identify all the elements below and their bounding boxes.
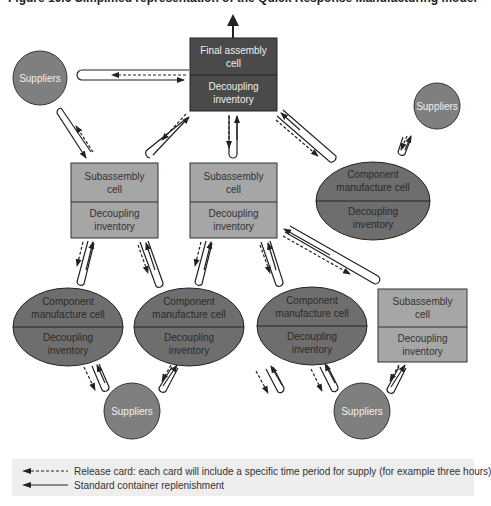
legend: Release card: each card will include a s… (12, 459, 474, 496)
subassembly-cell-left: Subassembly cell Decoupling inventory (71, 163, 158, 238)
dashed-arrow-icon (22, 466, 70, 476)
svg-text:Component: Component (42, 296, 94, 307)
svg-text:inventory: inventory (353, 219, 394, 230)
loop-comp3-suppliers (311, 364, 338, 392)
component-cell-bottom-1: Component manufacture cell Decoupling in… (13, 288, 123, 366)
loop-final-sub-middle (229, 115, 237, 158)
loop-sub-left-comp2 (138, 241, 163, 287)
suppliers-top-left: Suppliers (13, 51, 67, 105)
svg-text:inventory: inventory (213, 94, 254, 105)
svg-text:inventory: inventory (213, 221, 254, 232)
svg-text:manufacture cell: manufacture cell (336, 182, 409, 193)
svg-text:Decoupling: Decoupling (287, 331, 337, 342)
svg-text:Decoupling: Decoupling (43, 332, 93, 343)
legend-standard-container-label: Standard container replenishment (74, 480, 224, 491)
svg-text:manufacture cell: manufacture cell (31, 309, 104, 320)
suppliers-bottom-left: Suppliers (104, 383, 160, 439)
loop-final-sub-left (146, 114, 189, 158)
svg-text:Suppliers: Suppliers (341, 406, 383, 417)
loop-comp1-suppliers (84, 364, 109, 391)
loop-suppliers-sub-left (57, 108, 93, 158)
svg-text:cell: cell (107, 184, 122, 195)
svg-text:inventory: inventory (48, 345, 89, 356)
legend-release-card: Release card: each card will include a s… (12, 464, 491, 478)
svg-text:Decoupling: Decoupling (208, 81, 258, 92)
loop-suppliers-comp-top-right (398, 136, 411, 155)
svg-text:Subassembly: Subassembly (203, 171, 263, 182)
svg-text:inventory: inventory (169, 345, 210, 356)
svg-text:Final assembly: Final assembly (200, 45, 267, 56)
svg-text:Component: Component (286, 295, 338, 306)
solid-arrow-icon (22, 480, 70, 490)
loop-sub-middle-comp2 (195, 241, 212, 285)
svg-text:Decoupling: Decoupling (164, 332, 214, 343)
legend-standard-container: Standard container replenishment (12, 478, 224, 492)
svg-text:Suppliers: Suppliers (19, 73, 61, 84)
arrow-up-icon (227, 14, 239, 26)
svg-text:Decoupling: Decoupling (208, 208, 258, 219)
svg-text:manufacture cell: manufacture cell (275, 308, 348, 319)
output-arrow (227, 14, 239, 38)
final-assembly-cell: Final assembly cell Decoupling inventory (190, 38, 277, 111)
svg-text:inventory: inventory (94, 221, 135, 232)
component-cell-top-right: Component manufacture cell Decoupling in… (316, 162, 430, 240)
svg-text:Decoupling: Decoupling (397, 333, 447, 344)
loop-suppliers-final (77, 70, 189, 80)
loop-comp2-suppliers (159, 365, 178, 392)
loop-sub-left-comp1 (77, 241, 94, 285)
legend-release-card-label: Release card: each card will include a s… (74, 466, 491, 477)
svg-text:inventory: inventory (292, 344, 333, 355)
svg-text:cell: cell (226, 58, 241, 69)
subassembly-cell-middle: Subassembly cell Decoupling inventory (190, 163, 277, 238)
svg-text:Decoupling: Decoupling (348, 206, 398, 217)
subassembly-cell-right: Subassembly cell Decoupling inventory (378, 289, 467, 362)
loop-sub-middle-comp3 (260, 241, 283, 286)
svg-text:cell: cell (226, 184, 241, 195)
svg-text:Component: Component (347, 169, 399, 180)
svg-text:Subassembly: Subassembly (392, 296, 452, 307)
svg-text:Suppliers: Suppliers (416, 101, 458, 112)
svg-text:Component: Component (163, 296, 215, 307)
suppliers-top-right: Suppliers (414, 83, 460, 129)
component-cell-bottom-2: Component manufacture cell Decoupling in… (134, 288, 244, 366)
svg-text:inventory: inventory (402, 346, 443, 357)
loop-sub-right-suppliers (387, 365, 406, 393)
suppliers-bottom-right: Suppliers (334, 383, 390, 439)
svg-text:Decoupling: Decoupling (89, 208, 139, 219)
svg-text:manufacture cell: manufacture cell (152, 309, 225, 320)
svg-text:Suppliers: Suppliers (111, 406, 153, 417)
loop-final-comp-top-right (276, 110, 336, 162)
svg-text:cell: cell (415, 309, 430, 320)
component-cell-bottom-3: Component manufacture cell Decoupling in… (257, 287, 367, 365)
svg-text:Subassembly: Subassembly (84, 171, 144, 182)
